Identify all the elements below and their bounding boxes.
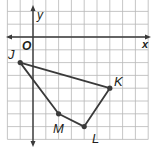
origin-label: O <box>22 39 32 53</box>
vertex-label-k: K <box>114 74 124 89</box>
coordinate-plane: y x O J K L M <box>0 0 157 150</box>
vertex-label-l: L <box>92 131 99 146</box>
y-axis-arrow-down-icon <box>31 141 36 147</box>
x-axis-arrow-left-icon <box>6 35 12 40</box>
axes: y x O <box>6 5 151 147</box>
x-axis-label: x <box>141 38 149 50</box>
vertex-points <box>18 60 113 129</box>
grid-lines <box>7 0 148 139</box>
vertex-point-j <box>18 60 23 65</box>
vertex-point-l <box>82 124 87 129</box>
vertex-point-k <box>107 86 112 91</box>
y-axis-arrow-up-icon <box>31 5 36 11</box>
y-axis-label: y <box>36 8 44 22</box>
vertex-point-m <box>56 111 61 116</box>
vertex-label-j: J <box>7 47 15 62</box>
vertex-label-m: M <box>53 121 64 136</box>
